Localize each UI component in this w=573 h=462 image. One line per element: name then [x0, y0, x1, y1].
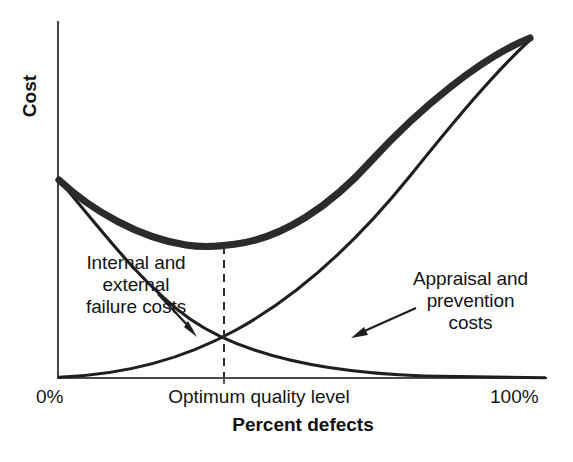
- x-tick-label-min: 0%: [36, 386, 63, 408]
- x-tick-label-max: 100%: [490, 386, 539, 408]
- total-cost-curve: [59, 38, 530, 247]
- y-axis-title: Cost: [19, 64, 41, 128]
- x-tick-label-optimum: Optimum quality level: [150, 386, 368, 408]
- quality-cost-chart: Cost Internal and external failure costs…: [0, 0, 573, 462]
- appraisal-costs-label: Appraisal and prevention costs: [383, 268, 558, 334]
- failure-costs-label: Internal and external failure costs: [56, 252, 216, 318]
- x-axis-title: Percent defects: [58, 414, 548, 436]
